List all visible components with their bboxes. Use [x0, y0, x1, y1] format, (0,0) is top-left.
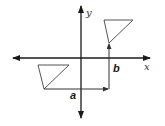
x-axis-label: x [144, 61, 150, 72]
original-triangle [38, 65, 69, 89]
coordinate-diagram: y x a b [0, 0, 165, 126]
vector-a-label: a [70, 89, 76, 101]
translated-triangle [104, 20, 133, 43]
vector-b-label: b [113, 62, 120, 74]
y-axis-label: y [85, 7, 92, 18]
